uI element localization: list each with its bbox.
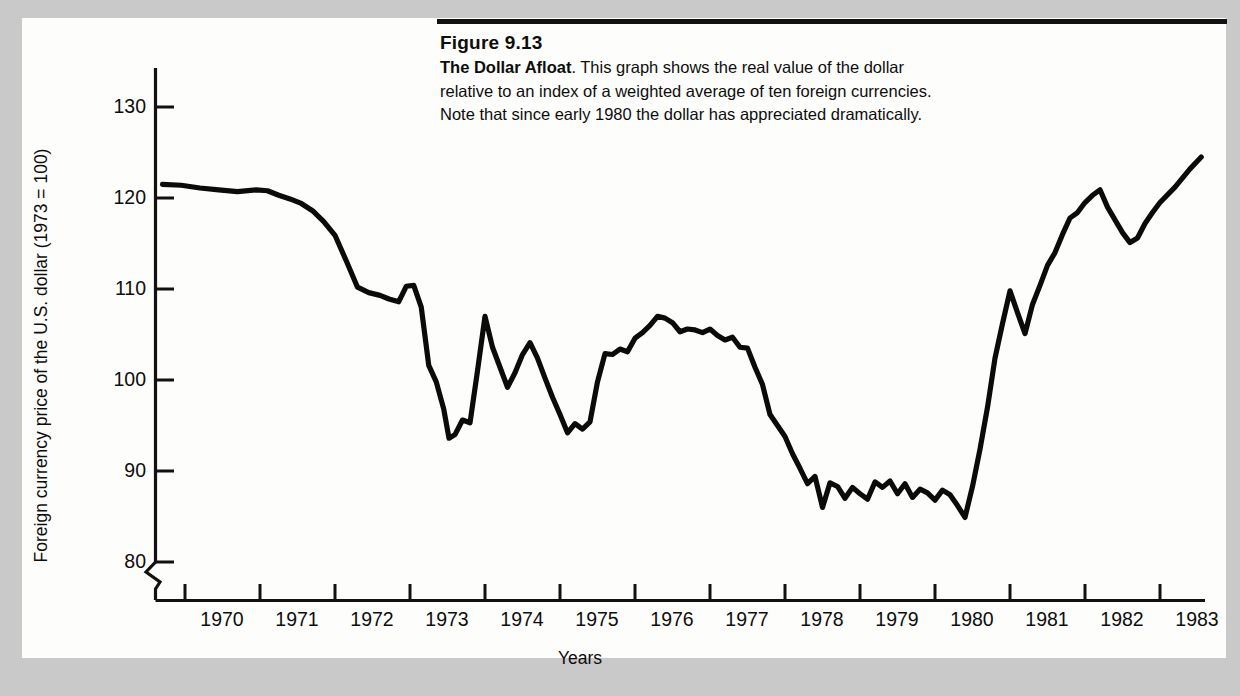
- y-tick-label-90: 90: [86, 461, 146, 481]
- x-tick-label-1972: 1972: [332, 610, 412, 630]
- x-tick-label-1973: 1973: [407, 610, 487, 630]
- x-tick-label-1970: 1970: [182, 610, 262, 630]
- x-tick-label-1974: 1974: [482, 610, 562, 630]
- y-tick-label-100: 100: [86, 370, 146, 390]
- x-tick-label-1977: 1977: [707, 610, 787, 630]
- x-tick-label-1981: 1981: [1007, 610, 1087, 630]
- x-tick-label-1971: 1971: [257, 610, 337, 630]
- y-axis-ticks: [155, 107, 174, 562]
- y-axis-break-symbol: [146, 545, 160, 600]
- y-tick-label-110: 110: [86, 279, 146, 299]
- y-tick-label-80: 80: [86, 552, 146, 572]
- x-tick-label-1979: 1979: [857, 610, 937, 630]
- figure-root: Figure 9.13 The Dollar Afloat. This grap…: [0, 0, 1240, 696]
- chart-plot-area: [0, 0, 1240, 696]
- x-tick-label-1980: 1980: [932, 610, 1012, 630]
- x-tick-label-1976: 1976: [632, 610, 712, 630]
- y-tick-label-130: 130: [86, 97, 146, 117]
- y-tick-label-120: 120: [86, 188, 146, 208]
- x-tick-label-1983: 1983: [1157, 610, 1237, 630]
- data-series-line: [163, 157, 1202, 517]
- x-tick-label-1982: 1982: [1082, 610, 1162, 630]
- x-tick-label-1978: 1978: [782, 610, 862, 630]
- x-tick-label-1975: 1975: [557, 610, 637, 630]
- x-axis-ticks: [185, 584, 1160, 600]
